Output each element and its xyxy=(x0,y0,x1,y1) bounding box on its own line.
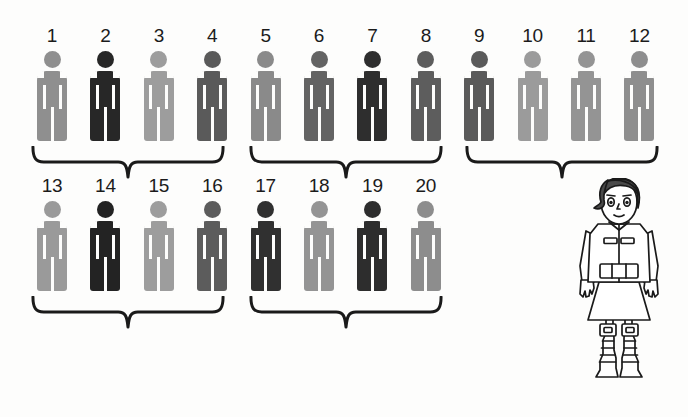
person-pictogram-icon xyxy=(81,51,129,143)
person-pictogram-icon xyxy=(402,51,450,143)
person-number-label: 3 xyxy=(135,26,183,48)
brace-1-4 xyxy=(30,146,226,182)
person-pictogram-icon xyxy=(242,51,290,143)
person-13: 13 xyxy=(28,176,76,293)
person-6: 6 xyxy=(295,26,343,143)
person-number-label: 1 xyxy=(28,26,76,48)
pictogram-figure: 123456789101112 1314151617181920 xyxy=(0,0,688,417)
person-1: 1 xyxy=(28,26,76,143)
person-8: 8 xyxy=(402,26,450,143)
line-art-girl-illustration xyxy=(556,178,688,383)
person-number-label: 4 xyxy=(188,26,236,48)
person-pictogram-icon xyxy=(28,51,76,143)
person-19: 19 xyxy=(348,176,396,293)
person-16: 16 xyxy=(188,176,236,293)
person-pictogram-icon xyxy=(242,201,290,293)
person-15: 15 xyxy=(135,176,183,293)
person-pictogram-icon xyxy=(509,51,557,143)
brace-13-16 xyxy=(30,296,226,332)
person-2: 2 xyxy=(81,26,129,143)
person-4: 4 xyxy=(188,26,236,143)
person-number-label: 7 xyxy=(348,26,396,48)
person-14: 14 xyxy=(81,176,129,293)
person-pictogram-icon xyxy=(348,201,396,293)
person-3: 3 xyxy=(135,26,183,143)
person-5: 5 xyxy=(242,26,290,143)
person-20: 20 xyxy=(402,176,450,293)
person-pictogram-icon xyxy=(188,51,236,143)
person-9: 9 xyxy=(455,26,503,143)
person-7: 7 xyxy=(348,26,396,143)
person-pictogram-icon xyxy=(188,201,236,293)
person-11: 11 xyxy=(562,26,610,143)
brace-17-20 xyxy=(248,296,444,332)
person-number-label: 10 xyxy=(509,26,557,48)
person-18: 18 xyxy=(295,176,343,293)
person-pictogram-icon xyxy=(295,201,343,293)
person-pictogram-icon xyxy=(455,51,503,143)
person-pictogram-icon xyxy=(562,51,610,143)
person-number-label: 11 xyxy=(562,26,610,48)
person-17: 17 xyxy=(242,176,290,293)
person-pictogram-icon xyxy=(135,51,183,143)
person-number-label: 5 xyxy=(242,26,290,48)
person-pictogram-icon xyxy=(615,51,663,143)
person-number-label: 12 xyxy=(615,26,663,48)
person-number-label: 6 xyxy=(295,26,343,48)
person-number-label: 9 xyxy=(455,26,503,48)
person-pictogram-icon xyxy=(81,201,129,293)
person-pictogram-icon xyxy=(348,51,396,143)
person-pictogram-icon xyxy=(135,201,183,293)
person-number-label: 2 xyxy=(81,26,129,48)
person-pictogram-icon xyxy=(28,201,76,293)
person-10: 10 xyxy=(509,26,557,143)
person-12: 12 xyxy=(615,26,663,143)
person-pictogram-icon xyxy=(295,51,343,143)
brace-9-12 xyxy=(464,146,660,182)
person-pictogram-icon xyxy=(402,201,450,293)
brace-5-8 xyxy=(248,146,444,182)
person-number-label: 8 xyxy=(402,26,450,48)
